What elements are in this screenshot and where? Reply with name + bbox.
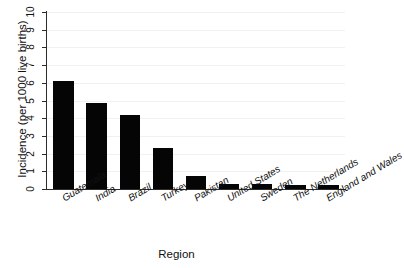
y-axis-tick [42,30,47,31]
gridline [47,101,345,102]
y-axis-tick-label: 7 [26,58,36,72]
gridline [47,12,345,13]
gridline [47,30,345,31]
gridline [47,83,345,84]
bar [53,81,74,189]
y-axis-tick [42,101,47,102]
x-axis-title: Region [0,248,353,260]
y-axis-tick [42,154,47,155]
y-axis-tick-label: 6 [26,76,36,90]
y-axis-tick-label: 1 [26,164,36,178]
bar [120,115,141,189]
plot-area: 012345678910 GuatemalaIndiaBrazilTurkeyP… [47,12,345,189]
y-axis-tick-label: 8 [26,40,36,54]
y-axis-tick [42,118,47,119]
y-axis-tick [42,83,47,84]
y-axis-tick [42,189,47,190]
gridline [47,47,345,48]
y-axis-tick-label: 4 [26,111,36,125]
y-axis-tick [42,12,47,13]
y-axis-tick [42,65,47,66]
y-axis-tick-label: 9 [26,23,36,37]
y-axis-tick [42,171,47,172]
y-axis-tick-label: 5 [26,94,36,108]
y-axis-tick-label: 10 [26,5,36,19]
y-axis-tick-label: 2 [26,147,36,161]
gridline [47,65,345,66]
y-axis-tick [42,47,47,48]
y-axis-tick-label: 3 [26,129,36,143]
y-axis-tick-label: 0 [26,182,36,196]
bar [153,148,174,189]
y-axis-tick [42,136,47,137]
